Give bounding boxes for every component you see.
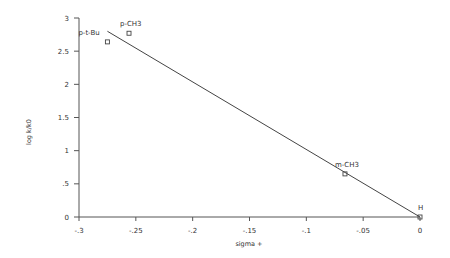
x-tick-label: -.1 <box>302 227 311 235</box>
y-tick-label: 1 <box>65 147 69 155</box>
x-tick-label: -.3 <box>74 227 83 235</box>
x-tick-label: -.2 <box>188 227 197 235</box>
fit-line <box>107 31 420 217</box>
scatter-chart: 0.511.522.53 -.3-.25-.2-.15-.1-.050 p-t-… <box>0 0 450 258</box>
y-tick-label: 0 <box>65 214 69 222</box>
x-axis-label: sigma + <box>235 240 262 248</box>
y-tick-label: .5 <box>62 180 69 188</box>
x-tick-label: 0 <box>418 227 422 235</box>
data-point-marker <box>127 31 131 35</box>
x-tick-label: -.05 <box>356 227 370 235</box>
y-tick-label: 3 <box>65 15 69 23</box>
x-tick-label: -.25 <box>129 227 143 235</box>
y-tick-label: 2.5 <box>58 48 69 56</box>
x-ticks: -.3-.25-.2-.15-.1-.050 <box>74 217 422 235</box>
y-tick-label: 1.5 <box>58 114 69 122</box>
y-tick-label: 2 <box>65 81 69 89</box>
data-point-label: p-t-Bu <box>78 29 99 37</box>
data-point-label: m-CH3 <box>335 161 359 169</box>
data-points: p-t-Bup-CH3m-CH3H <box>78 20 423 219</box>
regression-line <box>107 31 420 217</box>
data-point-marker <box>105 40 109 44</box>
y-axis-label: log k/k0 <box>25 119 33 145</box>
data-point-label: H <box>418 204 423 212</box>
y-ticks: 0.511.522.53 <box>58 15 79 222</box>
data-point-label: p-CH3 <box>120 20 142 28</box>
x-tick-label: -.15 <box>243 227 257 235</box>
